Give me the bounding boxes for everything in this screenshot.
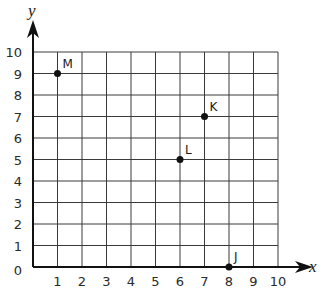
y-tick-label: 9 bbox=[14, 67, 22, 82]
x-tick-label: 9 bbox=[249, 274, 257, 289]
x-axis-label: x bbox=[308, 257, 317, 276]
x-tick-label: 10 bbox=[270, 274, 287, 289]
point-m bbox=[54, 70, 61, 77]
y-tick-label: 1 bbox=[14, 239, 22, 254]
x-tick-label: 5 bbox=[151, 274, 159, 289]
point-k bbox=[201, 113, 208, 120]
x-tick-label: 2 bbox=[78, 274, 86, 289]
y-tick-label: 3 bbox=[14, 196, 22, 211]
x-tick-label: 1 bbox=[53, 274, 61, 289]
y-tick-label: 0 bbox=[14, 263, 22, 278]
y-tick-label: 2 bbox=[14, 217, 22, 232]
y-tick-label: 4 bbox=[14, 174, 22, 189]
y-axis-label: y bbox=[26, 1, 36, 20]
x-tick-label: 7 bbox=[200, 274, 208, 289]
x-tick-label: 8 bbox=[225, 274, 233, 289]
x-tick-label: 4 bbox=[127, 274, 135, 289]
point-label-k: K bbox=[210, 100, 219, 114]
point-label-j: J bbox=[233, 250, 238, 264]
point-j bbox=[226, 264, 233, 271]
point-label-m: M bbox=[63, 57, 73, 71]
x-tick-label: 6 bbox=[176, 274, 184, 289]
x-tick-label: 3 bbox=[102, 274, 110, 289]
y-tick-label: 7 bbox=[14, 110, 22, 125]
coordinate-grid: yx01234567891012345678910MKLJ bbox=[0, 0, 325, 291]
y-tick-label: 6 bbox=[14, 131, 22, 146]
point-label-l: L bbox=[185, 143, 192, 157]
point-l bbox=[177, 156, 184, 163]
y-tick-label: 5 bbox=[14, 153, 22, 168]
y-tick-label: 8 bbox=[14, 88, 22, 103]
y-tick-label: 10 bbox=[5, 45, 22, 60]
